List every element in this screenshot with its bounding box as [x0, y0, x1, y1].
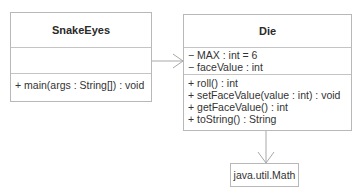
operations-section: + roll() : int + setFaceValue(value : in…: [184, 74, 351, 125]
class-name: java.util.Math: [231, 164, 298, 186]
class-java-util-math: java.util.Math: [230, 163, 299, 187]
operations-section: + main(args : String[]) : void: [11, 73, 151, 91]
attributes-section: − MAX : int = 6 − faceValue : int: [184, 47, 351, 74]
class-snakeeyes: SnakeEyes + main(args : String[]) : void: [10, 12, 152, 102]
operation: + roll() : int: [184, 77, 351, 89]
attributes-section: [11, 47, 151, 73]
class-name: SnakeEyes: [11, 13, 151, 47]
attribute: − MAX : int = 6: [184, 49, 351, 61]
operation: + toString() : String: [184, 113, 351, 125]
operation: + main(args : String[]) : void: [11, 79, 151, 91]
class-name: Die: [184, 15, 351, 47]
operation: + setFaceValue(value : int) : void: [184, 89, 351, 101]
class-die: Die − MAX : int = 6 − faceValue : int + …: [183, 14, 352, 131]
attribute: − faceValue : int: [184, 61, 351, 73]
operation: + getFaceValue() : int: [184, 101, 351, 113]
